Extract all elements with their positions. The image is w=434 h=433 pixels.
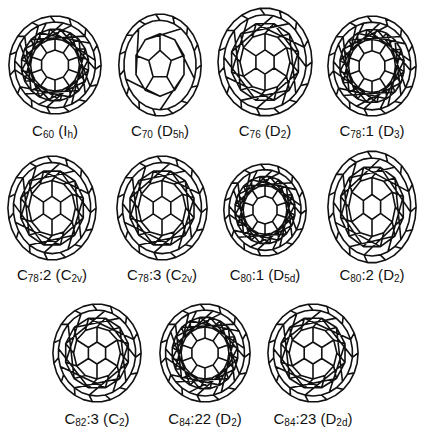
cage-label: C80:2 (D2) xyxy=(339,266,404,284)
cage-80-2 xyxy=(324,147,420,267)
cage-label: C80:1 (D5d) xyxy=(230,266,301,284)
cage-size: 78 xyxy=(138,273,149,284)
cage-size: 76 xyxy=(250,129,261,140)
cage-78-2 xyxy=(4,152,100,264)
symmetry-subscript: 2 xyxy=(281,129,287,140)
cage-label: C78:3 (C2v) xyxy=(127,266,197,284)
isomer-number: :22 xyxy=(190,410,211,427)
cage-size: 80 xyxy=(350,273,361,284)
symmetry-letter: D xyxy=(273,266,284,283)
symmetry-subscript: 5d xyxy=(284,273,295,284)
symmetry-letter: D xyxy=(326,410,337,427)
cage-76 xyxy=(214,4,316,120)
cage-element: C xyxy=(17,266,28,283)
cage-label: C76 (D2) xyxy=(239,122,292,140)
cage-label: C60 (Ih) xyxy=(32,122,78,140)
isomer-number: :1 xyxy=(252,266,265,283)
cage-label: C70 (D5h) xyxy=(131,122,189,140)
symmetry-letter: D xyxy=(383,122,394,139)
cage-size: 84 xyxy=(179,417,190,428)
cage-78-3 xyxy=(113,152,211,264)
cage-label: C78:1 (D3) xyxy=(339,122,404,140)
symmetry-letter: C xyxy=(61,266,72,283)
cage-size: 70 xyxy=(142,129,153,140)
cage-element: C xyxy=(131,122,142,139)
symmetry-letter: D xyxy=(220,410,231,427)
cage-size: 60 xyxy=(43,129,54,140)
cage-element: C xyxy=(64,410,75,427)
cage-element: C xyxy=(127,266,138,283)
cage-label: C84:22 (D2) xyxy=(168,410,241,428)
symmetry-subscript: 2 xyxy=(394,273,400,284)
cage-element: C xyxy=(239,122,250,139)
cage-label: C84:23 (D2d) xyxy=(274,410,353,428)
isomer-number: :2 xyxy=(39,266,52,283)
symmetry-subscript: h xyxy=(67,129,73,140)
cage-element: C xyxy=(339,122,350,139)
symmetry-letter: D xyxy=(383,266,394,283)
cage-element: C xyxy=(168,410,179,427)
isomer-number: :1 xyxy=(361,122,374,139)
cage-82-3 xyxy=(49,300,145,406)
cage-84-22 xyxy=(156,300,254,406)
cage-element: C xyxy=(230,266,241,283)
symmetry-subscript: 2v xyxy=(71,273,82,284)
cage-size: 80 xyxy=(241,273,252,284)
symmetry-subscript: 5h xyxy=(173,129,184,140)
cage-size: 78 xyxy=(350,129,361,140)
isomer-number: :2 xyxy=(361,266,374,283)
cage-element: C xyxy=(339,266,350,283)
symmetry-subscript: 2d xyxy=(336,417,347,428)
symmetry-letter: C xyxy=(108,410,119,427)
isomer-number: :23 xyxy=(295,410,316,427)
symmetry-letter: D xyxy=(162,122,173,139)
cage-60 xyxy=(5,12,105,118)
symmetry-subscript: 2v xyxy=(181,273,192,284)
cage-80-1 xyxy=(220,160,310,260)
isomer-number: :3 xyxy=(149,266,162,283)
cage-84-23 xyxy=(264,300,362,406)
cage-size: 84 xyxy=(284,417,295,428)
symmetry-subscript: 3 xyxy=(394,129,400,140)
cage-label: C78:2 (C2v) xyxy=(17,266,87,284)
cage-label: C82:3 (C2) xyxy=(64,410,129,428)
cage-element: C xyxy=(32,122,43,139)
cage-size: 78 xyxy=(28,273,39,284)
cage-element: C xyxy=(274,410,285,427)
cage-70 xyxy=(115,10,205,120)
cage-78-1 xyxy=(324,12,420,120)
symmetry-subscript: 2 xyxy=(231,417,237,428)
cage-size: 82 xyxy=(75,417,86,428)
isomer-number: :3 xyxy=(86,410,99,427)
symmetry-letter: C xyxy=(171,266,182,283)
symmetry-subscript: 2 xyxy=(119,417,125,428)
symmetry-letter: D xyxy=(270,122,281,139)
